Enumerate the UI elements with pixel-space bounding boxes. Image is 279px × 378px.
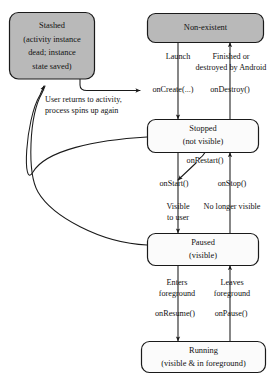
edge-label-leaves-line-2: foreground	[214, 289, 250, 298]
paused-label-line-1: Paused	[191, 238, 216, 247]
edge-label-enters-line-2: foreground	[159, 289, 195, 298]
stashed-label-line-3: dead; instance	[28, 48, 76, 57]
diagram-canvas: Stashed (activity instance dead; instanc…	[0, 0, 279, 378]
edge-label-visible-line-1: Visible	[166, 202, 190, 211]
stopped-label-line-2: (not visible)	[183, 137, 224, 146]
running-label-line-1: Running	[189, 346, 219, 355]
edge-label-onstart: onStart()	[159, 179, 188, 188]
edge-label-no-longer-visible: No longer visible	[204, 202, 261, 211]
stashed-label-line-1: Stashed	[39, 21, 66, 30]
non-existent-label: Non-existent	[184, 23, 228, 32]
running-label-line-2: (visible & in foreground)	[161, 359, 246, 368]
stashed-label-line-2: (activity instance	[23, 35, 81, 44]
edge-stashed-to-oncreate	[80, 79, 140, 91]
edge-label-user-returns-line-1: User returns to activity,	[45, 95, 122, 104]
edge-onrestart-pointer	[178, 163, 196, 180]
activity-lifecycle-diagram: Stashed (activity instance dead; instanc…	[0, 0, 279, 378]
edge-label-onpause: onPause()	[215, 309, 248, 318]
stashed-label-line-4: state saved)	[32, 62, 72, 71]
paused-label-line-2: (visible)	[189, 251, 217, 260]
edge-label-finished-line-1: Finished or	[212, 52, 249, 61]
edge-label-onresume: onResume()	[155, 309, 195, 318]
edge-label-ondestroy: onDestroy()	[210, 85, 250, 94]
stopped-label-line-1: Stopped	[189, 124, 217, 133]
edge-label-enters-line-1: Enters	[167, 278, 188, 287]
edge-label-visible-line-2: to user	[167, 213, 189, 222]
edge-label-finished-line-2: destroyed by Android	[196, 63, 267, 72]
edge-label-oncreate: onCreate(...)	[152, 85, 193, 94]
edge-label-leaves-line-1: Leaves	[220, 278, 243, 287]
edge-label-user-returns-line-2: process spins up again	[45, 106, 118, 115]
edge-label-onrestart: onRestart()	[187, 156, 224, 165]
edge-label-launch: Launch	[166, 52, 191, 61]
edge-label-onstop: onStop()	[218, 179, 247, 188]
